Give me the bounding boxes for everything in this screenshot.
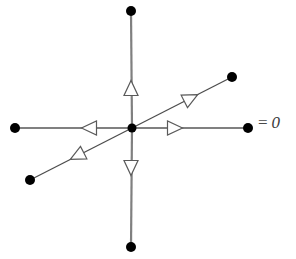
edge-upper-right-diagonal-endpoint-node: [227, 72, 237, 82]
edge-right-endpoint-node: [243, 123, 253, 133]
edge-left-endpoint-node: [10, 123, 20, 133]
edge-down-endpoint-node: [126, 242, 136, 252]
equals-sign: =: [258, 113, 269, 132]
equation-value: 0: [272, 113, 282, 132]
figure-root: =0: [0, 0, 296, 259]
equation-label: =0: [258, 114, 281, 131]
edge-up-line: [131, 11, 132, 128]
directed-star-diagram: [0, 0, 296, 259]
edge-lower-left-diagonal-endpoint-node: [25, 175, 35, 185]
edge-up-endpoint-node: [126, 6, 136, 16]
center-vertex-group: [128, 124, 137, 133]
edge-down-line: [131, 128, 132, 247]
center-vertex-node: [128, 124, 137, 133]
